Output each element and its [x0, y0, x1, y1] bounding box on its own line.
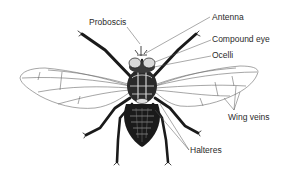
label-wing-veins: Wing veins [228, 112, 270, 122]
label-antenna: Antenna [212, 12, 244, 22]
left-wing [20, 68, 130, 108]
label-ocelli: Ocelli [212, 50, 233, 60]
ocelli [141, 59, 143, 61]
label-compound-eye: Compound eye [212, 34, 270, 44]
compound-eye-right [143, 58, 155, 68]
label-proboscis: Proboscis [89, 17, 126, 27]
fly-anatomy-diagram: Proboscis Antenna Compound eye Ocelli Wi… [0, 0, 293, 177]
compound-eye-left [129, 58, 141, 68]
fly-illustration [0, 0, 293, 177]
abdomen [124, 104, 160, 147]
thorax [127, 69, 157, 104]
label-halteres: Halteres [190, 145, 222, 155]
right-wing [155, 66, 258, 106]
